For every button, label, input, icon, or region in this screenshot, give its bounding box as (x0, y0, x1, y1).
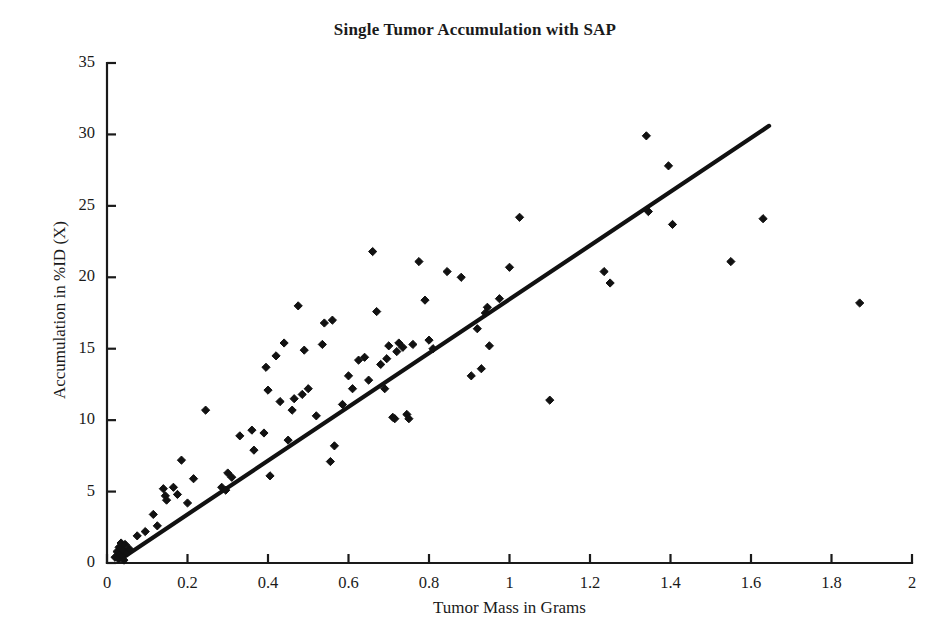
scatter-point (300, 346, 308, 354)
scatter-point (266, 472, 274, 480)
scatter-point (759, 215, 767, 223)
scatter-point (546, 396, 554, 404)
x-tick-label: 1.6 (726, 573, 776, 593)
scatter-point (377, 360, 385, 368)
y-tick-label: 30 (55, 123, 95, 143)
scatter-point (169, 483, 177, 491)
x-tick-label: 1.8 (807, 573, 857, 593)
scatter-point (344, 372, 352, 380)
scatter-point (642, 132, 650, 140)
x-tick-label: 0.4 (243, 573, 293, 593)
scatter-point (328, 316, 336, 324)
scatter-point (515, 213, 523, 221)
x-tick-label: 2 (887, 573, 937, 593)
scatter-point (173, 490, 181, 498)
scatter-point (276, 397, 284, 405)
scatter-point (385, 342, 393, 350)
scatter-point (260, 429, 268, 437)
scatter-point (477, 365, 485, 373)
scatter-point (318, 340, 326, 348)
x-tick-label: 0.8 (404, 573, 454, 593)
scatter-point (425, 336, 433, 344)
scatter-point (600, 267, 608, 275)
scatter-point (505, 263, 513, 271)
scatter-point (467, 372, 475, 380)
scatter-point (202, 406, 210, 414)
scatter-point (264, 386, 272, 394)
y-tick-label: 0 (55, 552, 95, 572)
scatter-point (290, 395, 298, 403)
scatter-point (668, 220, 676, 228)
scatter-point (133, 532, 141, 540)
scatter-point (153, 522, 161, 530)
scatter-point (485, 342, 493, 350)
scatter-point (409, 340, 417, 348)
scatter-point (189, 475, 197, 483)
scatter-point (312, 412, 320, 420)
scatter-point (365, 376, 373, 384)
x-tick-label: 0 (82, 573, 132, 593)
x-tick-label: 0.6 (324, 573, 374, 593)
scatter-point (443, 267, 451, 275)
scatter-points (111, 132, 864, 564)
scatter-point (856, 299, 864, 307)
y-tick-label: 10 (55, 409, 95, 429)
y-tick-label: 5 (55, 481, 95, 501)
scatter-point (330, 442, 338, 450)
scatter-point (248, 426, 256, 434)
plot-area (0, 0, 950, 643)
scatter-point (159, 485, 167, 493)
x-tick-label: 1.2 (565, 573, 615, 593)
scatter-point (421, 296, 429, 304)
scatter-point (304, 385, 312, 393)
scatter-point (473, 325, 481, 333)
scatter-point (664, 162, 672, 170)
y-tick-label: 20 (55, 266, 95, 286)
scatter-point (373, 307, 381, 315)
x-tick-label: 1.4 (646, 573, 696, 593)
scatter-point (383, 355, 391, 363)
scatter-point (727, 257, 735, 265)
scatter-point (294, 302, 302, 310)
scatter-point (183, 499, 191, 507)
scatter-point (415, 257, 423, 265)
y-tick-label: 35 (55, 52, 95, 72)
scatter-point (457, 273, 465, 281)
scatter-point (348, 385, 356, 393)
y-tick-label: 15 (55, 338, 95, 358)
scatter-point (236, 432, 244, 440)
scatter-point (250, 446, 258, 454)
scatter-point (141, 527, 149, 535)
chart-figure: Single Tumor Accumulation with SAP Accum… (0, 0, 950, 643)
trend-line-segment (119, 126, 769, 560)
scatter-point (288, 406, 296, 414)
y-tick-label: 25 (55, 195, 95, 215)
scatter-point (280, 339, 288, 347)
x-tick-label: 1 (485, 573, 535, 593)
scatter-point (149, 510, 157, 518)
scatter-point (369, 247, 377, 255)
scatter-point (262, 363, 270, 371)
scatter-point (606, 279, 614, 287)
scatter-point (326, 457, 334, 465)
scatter-point (272, 352, 280, 360)
scatter-point (298, 390, 306, 398)
x-tick-label: 0.2 (163, 573, 213, 593)
scatter-point (177, 456, 185, 464)
scatter-point (320, 319, 328, 327)
trend-line (119, 126, 769, 560)
